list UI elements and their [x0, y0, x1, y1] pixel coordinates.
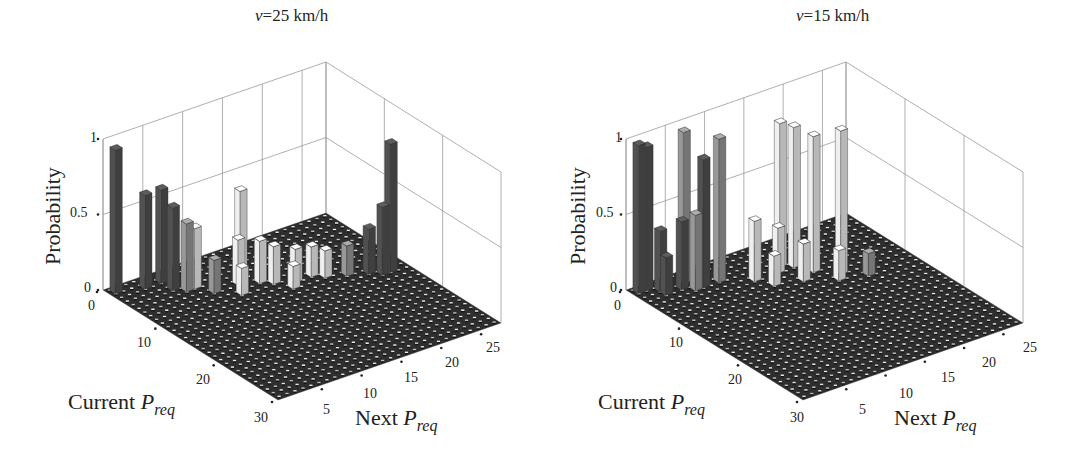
next-tick-25: 25	[486, 340, 500, 356]
histogram-bars	[633, 118, 875, 296]
chart-3d-plot	[541, 0, 1082, 452]
current-tick-10: 10	[669, 335, 683, 351]
bar	[377, 202, 389, 276]
label-subscript: req	[684, 401, 705, 418]
bar	[749, 216, 761, 282]
label-subscript: req	[417, 417, 438, 434]
bar	[798, 238, 810, 281]
bar	[320, 245, 332, 278]
bar	[690, 210, 702, 291]
z-tick-1: 1	[615, 130, 622, 146]
label-text: Current	[68, 389, 141, 414]
current-axis-label: Current Preq	[68, 389, 175, 419]
title-text: =25 km/h	[263, 6, 329, 25]
bar	[156, 184, 168, 283]
bar	[363, 223, 375, 274]
title-text: =15 km/h	[804, 6, 870, 25]
next-tick-20: 20	[982, 355, 996, 371]
current-axis-label: Current Preq	[598, 389, 705, 419]
label-text: Next	[894, 405, 942, 430]
z-tick-0: 0	[610, 280, 617, 296]
label-symbol: P	[403, 405, 416, 430]
bar	[676, 216, 688, 290]
bar	[268, 241, 280, 285]
next-tick-20: 20	[445, 355, 459, 371]
bar	[288, 261, 300, 289]
bar	[140, 190, 152, 289]
bar	[110, 145, 122, 294]
title-variable: v	[255, 6, 263, 25]
z-tick-05: 0.5	[70, 205, 88, 221]
bar	[833, 245, 845, 281]
bar	[236, 263, 248, 296]
current-tick-30: 30	[254, 410, 268, 426]
next-tick-15: 15	[404, 370, 418, 386]
bar	[181, 218, 193, 292]
bar	[713, 134, 725, 283]
bar	[254, 236, 266, 284]
label-subscript: req	[956, 417, 977, 434]
label-symbol: P	[671, 389, 684, 414]
next-tick-15: 15	[941, 370, 955, 386]
label-subscript: req	[154, 401, 175, 418]
bar	[341, 240, 353, 276]
next-tick-25: 25	[1023, 340, 1037, 356]
z-tick-1: 1	[90, 130, 97, 146]
bar	[660, 252, 672, 296]
chart-3d-plot	[0, 0, 541, 452]
bar	[633, 140, 645, 294]
bar	[306, 241, 318, 277]
label-text: Next	[355, 405, 403, 430]
z-axis-label: Probability	[565, 167, 591, 265]
current-tick-30: 30	[790, 410, 804, 426]
bar	[863, 248, 875, 276]
label-symbol: P	[942, 405, 955, 430]
next-tick-5: 5	[859, 402, 866, 418]
next-axis-label: Next Preq	[894, 405, 976, 435]
label-symbol: P	[141, 389, 154, 414]
next-tick-5: 5	[323, 402, 330, 418]
current-tick-0: 0	[88, 298, 95, 314]
current-tick-20: 20	[196, 372, 210, 388]
label-text: Current	[598, 389, 671, 414]
next-tick-10: 10	[899, 386, 913, 402]
next-tick-10: 10	[363, 386, 377, 402]
bar	[209, 255, 221, 294]
bar	[769, 250, 781, 286]
z-tick-0: 0	[84, 280, 91, 296]
z-axis-label: Probability	[40, 167, 66, 265]
chart-panel-v15: v=15 km/h Probability 1 0.5 0 0 10 20 30…	[541, 0, 1082, 452]
bar	[167, 202, 179, 291]
current-tick-0: 0	[614, 298, 621, 314]
next-axis-label: Next Preq	[355, 405, 437, 435]
current-tick-10: 10	[137, 335, 151, 351]
z-tick-05: 0.5	[596, 205, 614, 221]
current-tick-20: 20	[728, 372, 742, 388]
title-variable: v	[796, 6, 804, 25]
chart-title: v=15 km/h	[796, 6, 869, 26]
chart-panel-v25: v=25 km/h Probability 1 0.5 0 0 10 20 30…	[0, 0, 541, 452]
chart-title: v=25 km/h	[255, 6, 328, 26]
